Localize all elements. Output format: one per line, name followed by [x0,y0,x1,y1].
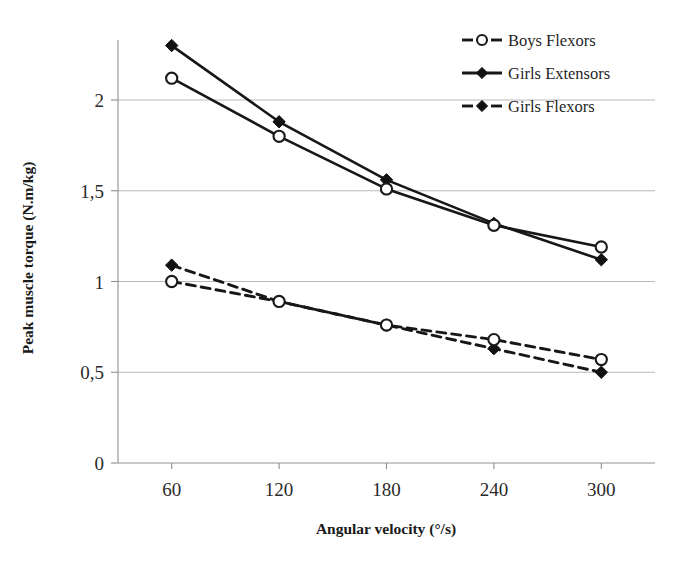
y-tick-label: 0,5 [80,362,104,383]
y-tick-label: 1,5 [80,181,104,202]
x-tick-group: 60120180240300 [162,463,615,500]
data-point-120 [274,296,285,307]
y-tick-label: 1 [95,272,105,293]
x-tick-label: 60 [162,479,181,500]
chart-legend: Boys FlexorsGirls ExtensorsGirls Flexors [462,31,610,116]
data-point-60 [166,259,178,271]
chart-figure: 00,511,52 60120180240300 Angular velocit… [0,0,678,562]
x-axis-title: Angular velocity (°/s) [316,520,456,538]
y-tick-group: 00,511,52 [80,90,118,474]
line-chart: 00,511,52 60120180240300 Angular velocit… [0,0,678,562]
legend-marker-filled-diamond [476,100,487,111]
series-boys-flexors [166,276,607,365]
legend-item-girls-extensors[interactable]: Girls Extensors [462,64,610,83]
x-tick-label: 120 [265,479,294,500]
x-tick-label: 240 [480,479,509,500]
y-axis-title: Peak muscle torque (N.m/kg) [19,162,37,355]
legend-item-girls-flexors[interactable]: Girls Flexors [462,97,595,116]
data-point-60 [166,276,177,287]
data-point-300 [595,254,607,266]
y-tick-label: 0 [95,453,105,474]
legend-marker-filled-diamond [476,67,487,78]
data-point-300 [595,366,607,378]
data-point-240 [488,220,499,231]
legend-item-boys-flexors[interactable]: Boys Flexors [462,31,596,50]
data-point-300 [596,241,607,252]
legend-marker-open-circle [477,35,487,45]
y-tick-label: 2 [95,90,105,111]
x-tick-label: 300 [587,479,616,500]
legend-label: Boys Flexors [508,31,596,50]
legend-label: Girls Flexors [508,97,595,116]
data-series-group [166,39,608,378]
data-point-60 [166,73,177,84]
data-point-180 [381,183,392,194]
data-point-180 [381,319,392,330]
data-point-300 [596,354,607,365]
data-point-240 [488,334,499,345]
x-tick-label: 180 [372,479,401,500]
legend-label: Girls Extensors [508,64,610,83]
data-point-120 [274,131,285,142]
